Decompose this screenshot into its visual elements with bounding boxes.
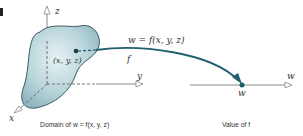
x-axis-label: x <box>9 114 14 123</box>
z-axis-label: z <box>55 7 60 16</box>
domain-caption: Domain of w = f(x, y, z) <box>40 121 109 129</box>
figure-marker <box>0 8 3 16</box>
function-label: f <box>127 55 130 64</box>
point-label: (x, y, z) <box>53 57 82 65</box>
y-axis-label: y <box>137 72 142 81</box>
function-diagram <box>0 0 303 136</box>
value-point <box>240 83 245 88</box>
w-axis-label: w <box>287 72 295 81</box>
domain-region <box>22 25 100 108</box>
mapping-arrow <box>96 48 238 80</box>
y-axis-arrowhead-icon <box>136 81 143 87</box>
mapping-label: w = f(x, y, z) <box>128 36 184 45</box>
w-axis-arrowhead-icon <box>285 82 292 88</box>
z-axis-arrowhead-icon <box>44 6 50 14</box>
value-caption: Value of f <box>222 121 250 129</box>
domain-point <box>74 49 79 54</box>
value-point-label: w <box>238 89 246 98</box>
mapping-arrowhead-icon <box>232 73 242 84</box>
